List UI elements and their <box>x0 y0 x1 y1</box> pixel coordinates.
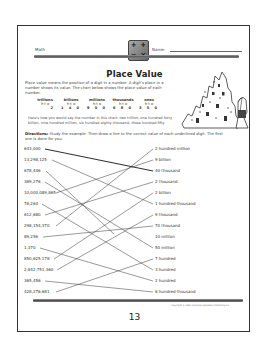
copyright-notice: Copyright © 1991 American Education Publ… <box>171 304 230 307</box>
footer-divider <box>33 299 243 302</box>
answer-lines <box>18 26 251 333</box>
page-number: 13 <box>18 312 251 322</box>
example-answer-line <box>45 149 153 171</box>
matching-exercise: 643,000 13,298,125 678,446 389,276 10,00… <box>18 26 251 333</box>
worksheet-page: Math + + − × Name: Place Value Place val… <box>17 25 250 332</box>
